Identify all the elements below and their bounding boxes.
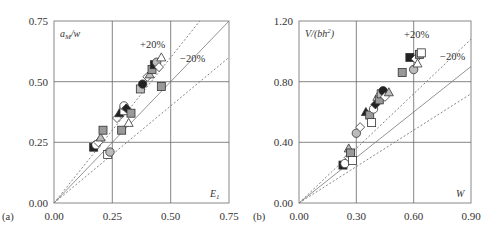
y-tick-label: 0.00 <box>274 197 294 209</box>
panel-label: (b) <box>253 211 266 223</box>
minus-20-annotation: −20% <box>180 53 205 64</box>
x-tick-label: 0.75 <box>219 210 239 222</box>
data-point-marker <box>157 83 165 91</box>
panel-b-frame <box>299 21 471 203</box>
data-point-marker <box>349 157 357 165</box>
data-point-marker <box>106 148 114 156</box>
data-point-marker <box>127 109 135 117</box>
y-tick-label: 0.50 <box>29 76 49 88</box>
x-tick-label: 0.25 <box>103 210 123 222</box>
y-tick-label: 0.75 <box>29 15 49 27</box>
y-axis-label: V/(bh2) <box>305 27 335 40</box>
data-point-marker <box>347 149 355 157</box>
data-point-marker <box>368 119 376 127</box>
y-tick-label: 0.80 <box>274 76 294 88</box>
tolerance-line <box>299 94 471 203</box>
x-tick-label: 0.30 <box>347 210 367 222</box>
tolerance-line <box>299 39 471 203</box>
y-tick-label: 0.40 <box>274 136 294 148</box>
reference-lines <box>299 39 471 203</box>
tolerance-line <box>54 57 229 203</box>
x-tick-label: 0.50 <box>161 210 181 222</box>
x-axis-label: W <box>456 188 466 199</box>
x-axis-label: E1 <box>209 188 220 201</box>
y-tick-label: 0.00 <box>29 197 49 209</box>
plus-20-annotation: +20% <box>140 39 165 50</box>
plus-20-annotation: +20% <box>404 29 429 40</box>
panel-a: 0.00 0.25 0.50 0.75 0.00 0.25 0.50 0.75 … <box>2 15 239 223</box>
x-tick-label: 0.00 <box>289 210 309 222</box>
panel-label: (a) <box>2 211 14 223</box>
y-axis-label: aM/w <box>60 28 81 41</box>
y-tick-label: 1.20 <box>274 15 294 27</box>
minus-20-annotation: −20% <box>440 51 465 62</box>
x-tick-label: 0.60 <box>404 210 424 222</box>
figure: 0.00 0.25 0.50 0.75 0.00 0.25 0.50 0.75 … <box>0 0 498 237</box>
data-point-marker <box>157 53 166 61</box>
data-point-marker <box>99 126 107 134</box>
x-tick-label: 0.00 <box>44 210 64 222</box>
y-tick-label: 0.25 <box>29 136 49 148</box>
data-point-marker <box>398 69 406 77</box>
data-point-marker <box>417 49 425 57</box>
data-point-marker <box>138 80 146 88</box>
data-points <box>339 49 425 169</box>
x-tick-label: 0.90 <box>461 210 481 222</box>
panel-b: 0.00 0.40 0.80 1.20 0.00 0.30 0.60 0.90 … <box>253 15 481 223</box>
data-point-marker <box>118 126 126 134</box>
